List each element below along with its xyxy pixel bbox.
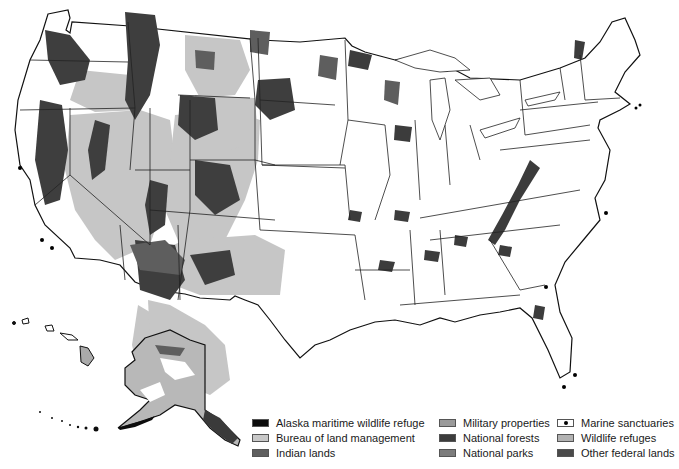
legend-item-military: Military properties [439, 415, 550, 430]
legend-label: National forests [463, 432, 539, 444]
legend-label: Alaska maritime wildlife refuge [276, 417, 425, 429]
solid-swatch-icon [439, 449, 456, 457]
legend-column-3: Marine sanctuaries Wildlife refuges Othe… [557, 415, 675, 460]
legend-item-indian-lands: Indian lands [252, 445, 425, 460]
solid-swatch-icon [252, 419, 269, 427]
legend-item-blm: Bureau of land management [252, 430, 425, 445]
legend-label: Wildlife refuges [581, 432, 656, 444]
federal-lands-map [0, 0, 679, 469]
legend-label: Indian lands [276, 447, 335, 459]
contiguous-us [15, 10, 640, 395]
solid-swatch-icon [439, 419, 456, 427]
legend-label: National parks [463, 447, 533, 459]
legend-item-marine-sanctuaries: Marine sanctuaries [557, 415, 675, 430]
legend-column-1: Alaska maritime wildlife refuge Bureau o… [252, 415, 425, 460]
solid-swatch-icon [252, 434, 269, 442]
solid-swatch-icon [439, 434, 456, 442]
legend-item-other-federal: Other federal lands [557, 445, 675, 460]
solid-swatch-icon [252, 449, 269, 457]
dot-swatch-icon [557, 419, 574, 427]
legend-item-alaska-maritime: Alaska maritime wildlife refuge [252, 415, 425, 430]
legend-label: Other federal lands [581, 447, 675, 459]
solid-swatch-icon [557, 449, 574, 457]
legend-label: Bureau of land management [276, 432, 415, 444]
legend-item-wildlife-refuges: Wildlife refuges [557, 430, 675, 445]
legend-label: Military properties [463, 417, 550, 429]
legend-column-2: Military properties National forests Nat… [439, 415, 550, 460]
legend-item-national-forests: National forests [439, 430, 550, 445]
legend-label: Marine sanctuaries [581, 417, 674, 429]
hawaii [13, 318, 95, 366]
solid-swatch-icon [557, 434, 574, 442]
map-legend: Alaska maritime wildlife refuge Bureau o… [252, 415, 679, 465]
legend-item-national-parks: National parks [439, 445, 550, 460]
